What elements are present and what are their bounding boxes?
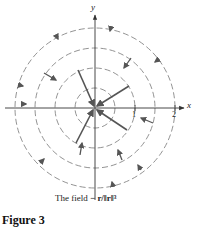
y-axis-label: y — [91, 2, 95, 12]
tick-label-2: 2 — [172, 110, 176, 119]
figure-label: Figure 3 — [2, 213, 45, 228]
caption-text: The field — [55, 193, 90, 203]
inner-arrows — [76, 70, 129, 143]
x-axis-label: x — [187, 100, 191, 110]
tick-label-1: 1 — [132, 110, 136, 119]
r1-arrows — [44, 73, 153, 160]
figure-caption: The field − r/‖r‖³ — [55, 193, 116, 203]
caption-formula: − r/‖r‖³ — [90, 193, 116, 203]
vector-field-diagram — [0, 0, 205, 200]
